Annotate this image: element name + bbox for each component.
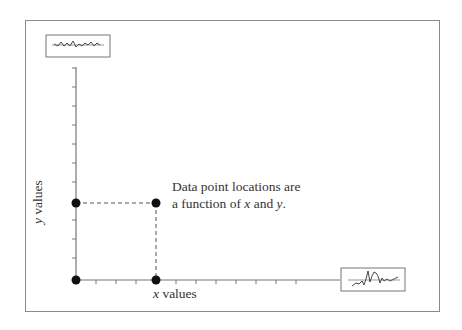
- xy-plot: [0, 0, 462, 330]
- diagram-stage: Data point locations are a function of x…: [0, 0, 462, 330]
- y-axis-label: y values: [30, 180, 46, 224]
- data-point: [152, 199, 161, 208]
- y-projection-point: [72, 199, 81, 208]
- annotation-line-1: Data point locations are: [172, 178, 301, 195]
- waveform-inset-top-left: [46, 35, 110, 57]
- projection-guides: [76, 203, 156, 280]
- annotation-line-2: a function of x and y.: [172, 195, 301, 212]
- x-axis-label: x values: [153, 286, 197, 302]
- origin-point: [72, 276, 81, 285]
- annotation-text: Data point locations are a function of x…: [172, 178, 301, 212]
- y-axis-label-container: y values: [26, 224, 44, 284]
- x-projection-point: [152, 276, 161, 285]
- y-axis: [72, 67, 76, 280]
- waveform-inset-bottom-right: [332, 268, 405, 291]
- x-axis: [76, 280, 332, 284]
